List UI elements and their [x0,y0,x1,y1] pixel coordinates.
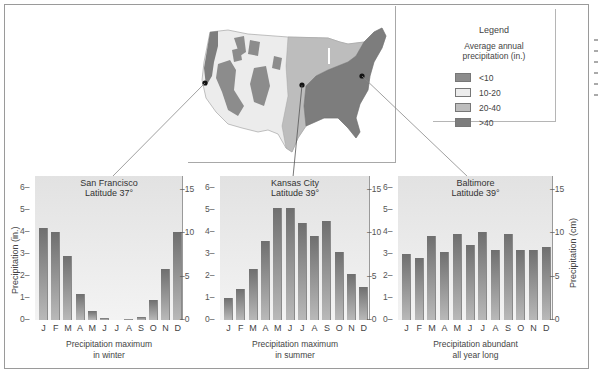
month-label: F [414,323,425,333]
plot-area: BaltimoreLatitude 39° [398,176,553,320]
legend-item-label: >40 [479,118,493,128]
bar-f [415,258,424,320]
legend-swatch-icon [455,73,471,82]
month-label: S [503,323,514,333]
legend-swatch-icon [455,88,471,97]
bar-m [427,236,436,320]
bar-a [440,252,449,320]
legend-item: 20-40 [455,100,501,115]
left-tick-label: 0– [383,314,392,324]
chart-caption: Precipitation abundantall year long [398,339,553,361]
legend-title: Legend [433,25,555,35]
us-precipitation-map [188,6,396,163]
left-tick-label: 1– [383,292,392,302]
month-label: D [541,323,552,333]
cropped-margin-text [591,30,603,130]
left-tick-label: 3– [383,248,392,258]
bar-j [466,245,475,320]
right-tick-label: –15 [550,184,564,194]
left-tick-label: 4– [383,226,392,236]
right-tick-label: –5 [550,271,559,281]
legend-item: >40 [455,115,501,130]
caption-line2: all year long [398,350,553,361]
left-tick-label: 2– [383,270,392,280]
month-label: M [452,323,463,333]
month-label: O [515,323,526,333]
bar-s [504,234,513,320]
legend-item-label: 20-40 [479,103,501,113]
month-label: A [439,323,450,333]
legend-item-label: 10-20 [479,88,501,98]
bar-m [453,234,462,320]
map-legend: Legend Average annual precipitation (in.… [433,9,556,122]
legend-items: <1010-2020-40>40 [455,70,501,130]
legend-subtitle: Average annual precipitation (in.) [433,41,555,61]
chart-title: BaltimoreLatitude 39° [398,178,553,198]
bar-o [516,250,525,320]
legend-swatch-icon [455,118,471,127]
bar-d [542,247,551,320]
month-label: J [401,323,412,333]
bar-a [491,250,500,320]
legend-subtitle-line1: Average annual [433,41,555,51]
bar-j [402,254,411,320]
left-tick-label: 6– [383,182,392,192]
month-label: J [465,323,476,333]
kansas-city-marker [299,82,304,87]
legend-item: <10 [455,70,501,85]
bar-n [529,250,538,320]
us-map-graphic [188,6,396,163]
baltimore-chart: BaltimoreLatitude 39°0–1–2–3–4–5–6––0–5–… [0,176,606,366]
caption-line1: Precipitation abundant [398,339,553,350]
month-label: J [477,323,488,333]
bar-j [478,232,487,320]
right-axis-line [552,176,553,320]
month-label: A [490,323,501,333]
right-tick-label: –10 [550,227,564,237]
y-axis-label-cm: Precipitation (cm) [568,218,578,288]
legend-item-label: <10 [479,73,493,83]
legend-subtitle-line2: precipitation (in.) [433,51,555,61]
legend-item: 10-20 [455,85,501,100]
city-name: Baltimore [398,178,553,188]
month-label: M [426,323,437,333]
legend-swatch-icon [455,103,471,112]
city-latitude: Latitude 39° [398,188,553,198]
month-label: N [528,323,539,333]
left-tick-label: 5– [383,204,392,214]
san-francisco-marker [202,80,207,85]
baltimore-marker [359,73,364,78]
